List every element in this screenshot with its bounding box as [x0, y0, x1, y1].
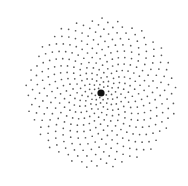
dot — [99, 58, 101, 60]
dot — [93, 39, 95, 41]
dot — [152, 132, 154, 134]
dot — [115, 103, 117, 105]
dot — [114, 158, 116, 160]
dot — [103, 151, 105, 153]
dot — [160, 81, 162, 83]
dot — [123, 123, 125, 125]
dot — [75, 30, 77, 32]
dot — [55, 130, 57, 132]
dot — [94, 88, 96, 90]
dot — [107, 125, 109, 127]
dot — [103, 119, 105, 121]
dot — [87, 52, 89, 54]
dot — [93, 67, 95, 69]
dot — [117, 143, 119, 145]
dot — [68, 102, 70, 104]
dot — [171, 77, 173, 79]
dot — [81, 80, 83, 82]
dot — [143, 37, 145, 39]
dot — [103, 28, 105, 30]
dot — [130, 45, 132, 47]
dot — [77, 155, 79, 157]
dot — [94, 141, 96, 143]
dot — [96, 80, 98, 82]
dot — [116, 70, 118, 72]
dot — [117, 21, 119, 23]
dot — [69, 83, 71, 85]
dot — [55, 107, 57, 109]
dot — [65, 147, 67, 149]
dot — [143, 119, 145, 121]
dot — [81, 32, 83, 34]
dot — [36, 65, 38, 67]
dot — [86, 67, 88, 69]
dot — [156, 115, 158, 117]
dot — [102, 99, 104, 101]
dot — [128, 140, 130, 142]
dot — [121, 70, 123, 72]
dot — [67, 65, 69, 67]
dot — [103, 129, 105, 131]
dot — [103, 81, 105, 83]
dot — [94, 120, 96, 122]
dot — [65, 51, 67, 53]
dot — [107, 22, 109, 24]
dot — [148, 126, 150, 128]
dot — [87, 96, 89, 98]
dot — [71, 160, 73, 162]
dot — [87, 143, 89, 145]
dot — [173, 103, 175, 105]
dot — [79, 105, 81, 107]
dot — [126, 131, 128, 133]
dot — [35, 98, 37, 100]
dot — [98, 146, 100, 148]
dot — [116, 134, 118, 136]
dot — [113, 82, 115, 84]
dot — [64, 121, 66, 123]
dot — [120, 38, 122, 40]
dot — [159, 95, 161, 97]
dot — [117, 119, 119, 121]
dot — [31, 104, 33, 106]
dot — [97, 108, 99, 110]
dot — [61, 35, 63, 37]
dot — [167, 108, 169, 110]
dot — [85, 73, 87, 75]
dot — [107, 98, 109, 100]
dot — [125, 32, 127, 34]
dot — [136, 106, 138, 108]
dot — [74, 78, 76, 80]
dot — [148, 85, 150, 87]
dot — [58, 151, 60, 153]
dot — [144, 64, 146, 66]
dot — [130, 119, 132, 121]
dot — [98, 24, 100, 26]
dot — [32, 89, 34, 91]
dot — [95, 62, 97, 64]
dot — [159, 130, 161, 132]
dot — [72, 117, 74, 119]
dot — [155, 124, 157, 126]
dot — [55, 58, 57, 60]
dot — [132, 133, 134, 135]
dot — [56, 144, 58, 146]
dot — [138, 93, 140, 95]
dot — [139, 84, 141, 86]
dot — [43, 88, 45, 90]
dot — [81, 40, 83, 42]
dot — [49, 60, 51, 62]
dot — [162, 112, 164, 114]
dot — [41, 71, 43, 73]
dot — [89, 89, 91, 91]
dot — [136, 66, 138, 68]
dot — [36, 75, 38, 77]
dot — [154, 99, 156, 101]
dot — [57, 87, 59, 89]
dot — [116, 32, 118, 34]
dot — [110, 120, 112, 122]
dot — [91, 93, 93, 95]
dot — [75, 38, 77, 40]
dot — [84, 117, 86, 119]
dot — [55, 97, 57, 99]
dot — [60, 65, 62, 67]
